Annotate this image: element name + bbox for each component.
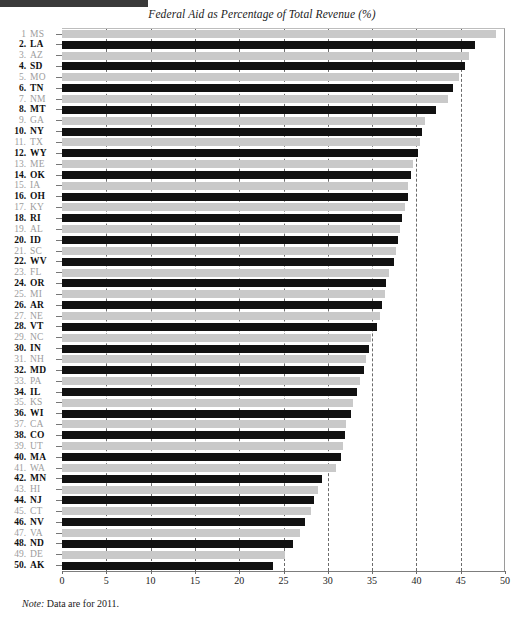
x-tick-label-35: 35 bbox=[357, 575, 387, 586]
bar bbox=[62, 171, 411, 179]
note-text: Data are for 2011. bbox=[44, 598, 119, 609]
bar bbox=[62, 182, 408, 190]
bar-row: 41.WA bbox=[0, 463, 524, 474]
x-tick-label-30: 30 bbox=[313, 575, 343, 586]
bar bbox=[62, 464, 336, 472]
tick-mark-30 bbox=[328, 571, 329, 574]
row-rank: 24. bbox=[0, 278, 26, 289]
bar bbox=[62, 551, 285, 559]
row-rank: 34. bbox=[0, 387, 26, 398]
x-tick-label-40: 40 bbox=[401, 575, 431, 586]
bar-row: 25.MI bbox=[0, 289, 524, 300]
row-state-label: ND bbox=[30, 538, 56, 549]
row-rank: 43. bbox=[0, 484, 26, 495]
bar bbox=[62, 236, 398, 244]
row-state-label: UT bbox=[30, 441, 56, 452]
bar bbox=[62, 30, 496, 38]
bar-row: 5.MO bbox=[0, 72, 524, 83]
bar bbox=[62, 475, 322, 483]
tick-mark-5 bbox=[106, 571, 107, 574]
row-rank: 39. bbox=[0, 441, 26, 452]
row-rank: 22. bbox=[0, 256, 26, 267]
row-rank: 36. bbox=[0, 408, 26, 419]
row-rank: 2. bbox=[0, 39, 26, 50]
row-state-label: IN bbox=[30, 343, 56, 354]
bar bbox=[62, 117, 425, 125]
x-tick-label-20: 20 bbox=[224, 575, 254, 586]
row-rank: 32. bbox=[0, 365, 26, 376]
row-state-label: MI bbox=[30, 289, 56, 300]
bar bbox=[62, 312, 380, 320]
bar-row: 37.CA bbox=[0, 419, 524, 430]
bar-row: 24.OR bbox=[0, 278, 524, 289]
row-rank: 13. bbox=[0, 159, 26, 170]
row-state-label: NC bbox=[30, 332, 56, 343]
bar-row: 50.AK bbox=[0, 560, 524, 571]
bar-row: 11.TX bbox=[0, 137, 524, 148]
row-rank: 7. bbox=[0, 94, 26, 105]
bar bbox=[62, 269, 389, 277]
bar-chart-figure: 05101520253035404550 1MS2.LA3.AZ4.SD5.MO… bbox=[0, 0, 524, 617]
bar bbox=[62, 73, 459, 81]
bar bbox=[62, 138, 420, 146]
row-state-label: KS bbox=[30, 397, 56, 408]
row-rank: 33. bbox=[0, 376, 26, 387]
row-state-label: WV bbox=[30, 256, 56, 267]
tick-mark-25 bbox=[284, 571, 285, 574]
bar bbox=[62, 279, 386, 287]
bar bbox=[62, 106, 436, 114]
row-state-label: WI bbox=[30, 408, 56, 419]
row-state-label: NJ bbox=[30, 495, 56, 506]
row-state-label: HI bbox=[30, 484, 56, 495]
bar-row: 21.SC bbox=[0, 246, 524, 257]
bar bbox=[62, 496, 314, 504]
bar bbox=[62, 540, 293, 548]
bar bbox=[62, 323, 377, 331]
row-state-label: VT bbox=[30, 321, 56, 332]
row-rank: 15. bbox=[0, 180, 26, 191]
row-rank: 25. bbox=[0, 289, 26, 300]
row-state-label: MS bbox=[30, 29, 56, 40]
row-state-label: AR bbox=[30, 300, 56, 311]
row-state-label: OK bbox=[30, 170, 56, 181]
bar bbox=[62, 518, 305, 526]
row-state-label: CT bbox=[30, 506, 56, 517]
bar-row: 9.GA bbox=[0, 115, 524, 126]
row-state-label: GA bbox=[30, 115, 56, 126]
row-state-label: MA bbox=[30, 452, 56, 463]
bar-row: 29.NC bbox=[0, 332, 524, 343]
row-rank: 29. bbox=[0, 332, 26, 343]
bar-row: 20.ID bbox=[0, 235, 524, 246]
row-rank: 14. bbox=[0, 170, 26, 181]
row-rank: 4. bbox=[0, 61, 26, 72]
bar-row: 15.IA bbox=[0, 180, 524, 191]
bar bbox=[62, 431, 345, 439]
row-rank: 6. bbox=[0, 83, 26, 94]
tick-mark-40 bbox=[416, 571, 417, 574]
row-rank: 28. bbox=[0, 321, 26, 332]
row-rank: 48. bbox=[0, 538, 26, 549]
bar-row: 38.CO bbox=[0, 430, 524, 441]
row-rank: 42. bbox=[0, 473, 26, 484]
row-rank: 17. bbox=[0, 202, 26, 213]
bar-row: 1MS bbox=[0, 29, 524, 40]
row-rank: 37. bbox=[0, 419, 26, 430]
row-rank: 20. bbox=[0, 235, 26, 246]
row-state-label: MT bbox=[30, 104, 56, 115]
row-state-label: LA bbox=[30, 39, 56, 50]
bar bbox=[62, 420, 346, 428]
bar-row: 8.MT bbox=[0, 104, 524, 115]
bar bbox=[62, 95, 448, 103]
row-rank: 11. bbox=[0, 137, 26, 148]
bar bbox=[62, 128, 422, 136]
bar-row: 47.VA bbox=[0, 528, 524, 539]
bar-row: 43.HI bbox=[0, 484, 524, 495]
bar-row: 34.IL bbox=[0, 387, 524, 398]
bar-row: 14.OK bbox=[0, 170, 524, 181]
bar-row: 49.DE bbox=[0, 549, 524, 560]
bar bbox=[62, 41, 475, 49]
bar-row: 17.KY bbox=[0, 202, 524, 213]
row-rank: 5. bbox=[0, 72, 26, 83]
row-state-label: NY bbox=[30, 126, 56, 137]
row-rank: 40. bbox=[0, 452, 26, 463]
